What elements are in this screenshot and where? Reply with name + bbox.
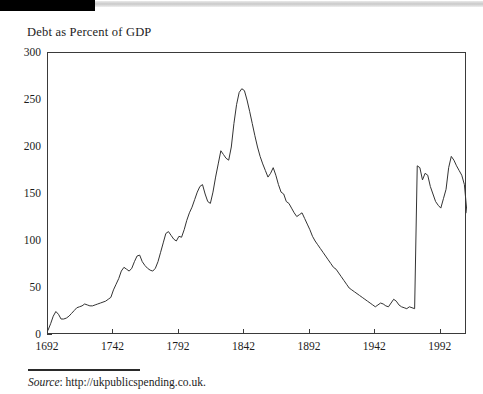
series-polyline — [48, 89, 467, 331]
source-divider — [28, 369, 140, 371]
x-axis-tick-mark — [309, 329, 310, 334]
x-axis-tick-label: 1792 — [166, 340, 189, 352]
y-axis-tick-label: 100 — [7, 234, 41, 246]
y-axis-label-group: 050100150200250300 — [0, 0, 41, 394]
source-note: Source: http://ukpublicspending.co.uk. — [28, 376, 206, 388]
x-axis-tick-label: 1942 — [363, 340, 386, 352]
page-edge-gray-bar — [95, 1, 483, 7]
y-axis-tick-label: 150 — [7, 187, 41, 199]
x-axis-tick-label: 1892 — [297, 340, 320, 352]
debt-percent-gdp-line-series — [48, 53, 467, 335]
x-axis-tick-label: 1842 — [232, 340, 255, 352]
plot-area — [47, 52, 466, 334]
chart-title: Debt as Percent of GDP — [27, 25, 152, 40]
source-label: Source — [28, 376, 60, 388]
x-axis-tick-mark — [440, 329, 441, 334]
source-url: http://ukpublicspending.co.uk. — [66, 376, 206, 388]
y-axis-tick-label: 250 — [7, 93, 41, 105]
x-axis-tick-label: 1692 — [36, 340, 59, 352]
x-axis-tick-mark — [374, 329, 375, 334]
y-axis-tick-label: 50 — [7, 281, 41, 293]
x-axis-tick-mark — [178, 329, 179, 334]
x-axis-tick-label: 1742 — [101, 340, 124, 352]
y-axis-tick-label: 0 — [7, 328, 41, 340]
x-axis-tick-mark — [243, 329, 244, 334]
y-axis-tick-label: 300 — [7, 46, 41, 58]
figure-page: Debt as Percent of GDP 05010015020025030… — [0, 0, 483, 394]
y-axis-tick-label: 200 — [7, 140, 41, 152]
x-axis-tick-mark — [112, 329, 113, 334]
x-axis-tick-label: 1992 — [428, 340, 451, 352]
x-axis-tick-mark — [47, 329, 48, 334]
